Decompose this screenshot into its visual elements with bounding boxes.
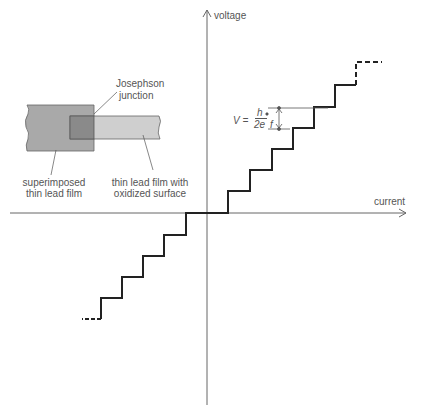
diagram-canvas: voltage current Josephson junction super… — [0, 0, 421, 413]
oxidized-label-line1: thin lead film with — [100, 177, 200, 188]
formula-numerator: h — [257, 107, 263, 118]
diagram-graphics — [0, 0, 421, 413]
formula-factor: f — [270, 119, 273, 130]
formula-denominator: 2e — [254, 119, 265, 130]
superimposed-label-line1: superimposed — [15, 177, 93, 188]
current-axis-label: current — [374, 196, 405, 207]
junction-inset — [25, 92, 160, 175]
staircase-dashed-top — [356, 62, 382, 85]
junction-overlap — [70, 116, 94, 139]
josephson-label-line2: junction — [119, 90, 153, 101]
superimposed-label-line2: thin lead film — [15, 188, 93, 199]
formula-lhs: V = — [233, 115, 248, 126]
oxidized-label-line2: oxidized surface — [100, 188, 200, 199]
voltage-axis-label: voltage — [214, 10, 246, 21]
step-height-indicator — [266, 107, 328, 131]
axes — [10, 10, 406, 405]
josephson-label-line1: Josephson — [116, 78, 164, 89]
